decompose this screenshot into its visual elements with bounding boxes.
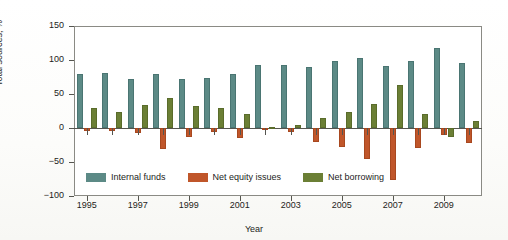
x-axis-tick-label: 2005 <box>332 200 352 210</box>
x-axis-tick <box>240 128 241 135</box>
y-axis-tick-label: 50 <box>0 89 64 98</box>
bar-net-borrowing <box>371 104 377 128</box>
bar-internal-funds <box>77 74 83 128</box>
x-axis-tick <box>138 128 139 135</box>
legend-label: Net borrowing <box>328 172 384 182</box>
x-axis-tick <box>87 128 88 135</box>
y-axis-tick <box>69 26 74 27</box>
x-axis-tick <box>367 128 368 135</box>
legend-label: Net equity issues <box>213 172 282 182</box>
plot-area <box>74 26 482 196</box>
bar-internal-funds <box>459 63 465 128</box>
y-axis-tick-label: 100 <box>0 55 64 64</box>
bar-net-borrowing <box>397 85 403 128</box>
bar-net-borrowing <box>295 125 301 128</box>
x-axis-title: Year <box>0 224 508 234</box>
x-axis-tick <box>291 128 292 135</box>
bar-internal-funds <box>179 79 185 128</box>
x-axis-tick <box>163 128 164 135</box>
bar-net-equity-issues <box>390 128 396 180</box>
bar-net-borrowing <box>167 98 173 128</box>
y-axis-tick-label: 0 <box>0 123 64 132</box>
bar-net-borrowing <box>142 105 148 128</box>
x-axis-tick <box>112 128 113 135</box>
bar-internal-funds <box>102 73 108 128</box>
x-axis-tick-label: 2003 <box>281 200 301 210</box>
chart-legend: Internal fundsNet equity issuesNet borro… <box>86 172 384 182</box>
x-axis-tick <box>214 128 215 135</box>
x-axis-tick <box>265 128 266 135</box>
x-axis-tick <box>418 128 419 135</box>
x-axis-tick-label: 1999 <box>179 200 199 210</box>
bar-net-borrowing <box>473 121 479 128</box>
x-axis-tick-label: 1995 <box>77 200 97 210</box>
y-axis-tick <box>69 60 74 61</box>
y-axis-tick <box>69 162 74 163</box>
y-axis-tick <box>69 196 74 197</box>
bar-internal-funds <box>255 65 261 128</box>
legend-item[interactable]: Internal funds <box>86 172 166 182</box>
x-axis-tick <box>342 128 343 135</box>
bar-internal-funds <box>281 65 287 128</box>
bar-net-borrowing <box>448 128 454 137</box>
x-axis-tick <box>469 128 470 135</box>
bar-net-borrowing <box>269 127 275 129</box>
legend-item[interactable]: Net equity issues <box>188 172 282 182</box>
bar-net-borrowing <box>320 118 326 128</box>
bar-net-borrowing <box>91 108 97 128</box>
chart-figure: Total sources, % Year Internal fundsNet … <box>0 0 508 240</box>
y-axis-tick-label: −100 <box>0 191 64 200</box>
bar-internal-funds <box>306 67 312 128</box>
y-axis-tick <box>69 94 74 95</box>
bar-internal-funds <box>357 58 363 128</box>
x-axis-tick-label: 2001 <box>230 200 250 210</box>
bar-internal-funds <box>204 78 210 128</box>
bar-net-borrowing <box>422 114 428 128</box>
bar-internal-funds <box>408 61 414 128</box>
y-axis-tick-label: −50 <box>0 157 64 166</box>
bar-internal-funds <box>332 61 338 128</box>
bar-internal-funds <box>230 74 236 128</box>
bar-internal-funds <box>153 74 159 128</box>
x-axis-tick-label: 1997 <box>128 200 148 210</box>
legend-item[interactable]: Net borrowing <box>303 172 384 182</box>
x-axis-tick <box>393 128 394 135</box>
bar-internal-funds <box>383 66 389 128</box>
legend-swatch-icon <box>188 173 208 182</box>
x-axis-tick <box>444 128 445 135</box>
bar-net-borrowing <box>346 112 352 128</box>
bar-internal-funds <box>128 79 134 128</box>
bar-internal-funds <box>434 48 440 128</box>
legend-swatch-icon <box>303 173 323 182</box>
legend-label: Internal funds <box>111 172 166 182</box>
bar-net-borrowing <box>244 114 250 128</box>
y-axis-tick-label: 150 <box>0 21 64 30</box>
y-axis-tick <box>69 128 74 129</box>
legend-swatch-icon <box>86 173 106 182</box>
x-axis-tick <box>316 128 317 135</box>
x-axis-tick-label: 2009 <box>434 200 454 210</box>
x-axis-tick <box>189 128 190 135</box>
bar-net-borrowing <box>218 108 224 128</box>
bar-net-borrowing <box>116 112 122 128</box>
x-axis-tick-label: 2007 <box>383 200 403 210</box>
bar-net-borrowing <box>193 106 199 128</box>
